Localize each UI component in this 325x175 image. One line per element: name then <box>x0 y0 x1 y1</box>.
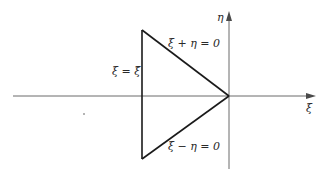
xi-axis-label: ξ <box>306 102 313 115</box>
xi-axis-arrow-icon <box>306 93 316 99</box>
diagram-canvas: η ξ ξ = ξ̃ ξ + η = 0 ξ − η = 0 <box>0 0 325 175</box>
eta-axis-arrow-icon <box>226 11 232 21</box>
left-edge-label: ξ = ξ̃ <box>112 65 141 78</box>
xi-axis <box>13 93 316 99</box>
dot-mark <box>83 113 85 115</box>
eta-axis-label: η <box>217 11 224 24</box>
upper-edge-label: ξ + η = 0 <box>168 37 220 50</box>
diagram-svg: η ξ ξ = ξ̃ ξ + η = 0 ξ − η = 0 <box>0 0 325 175</box>
eta-axis <box>226 11 232 169</box>
lower-edge-label: ξ − η = 0 <box>168 140 220 153</box>
